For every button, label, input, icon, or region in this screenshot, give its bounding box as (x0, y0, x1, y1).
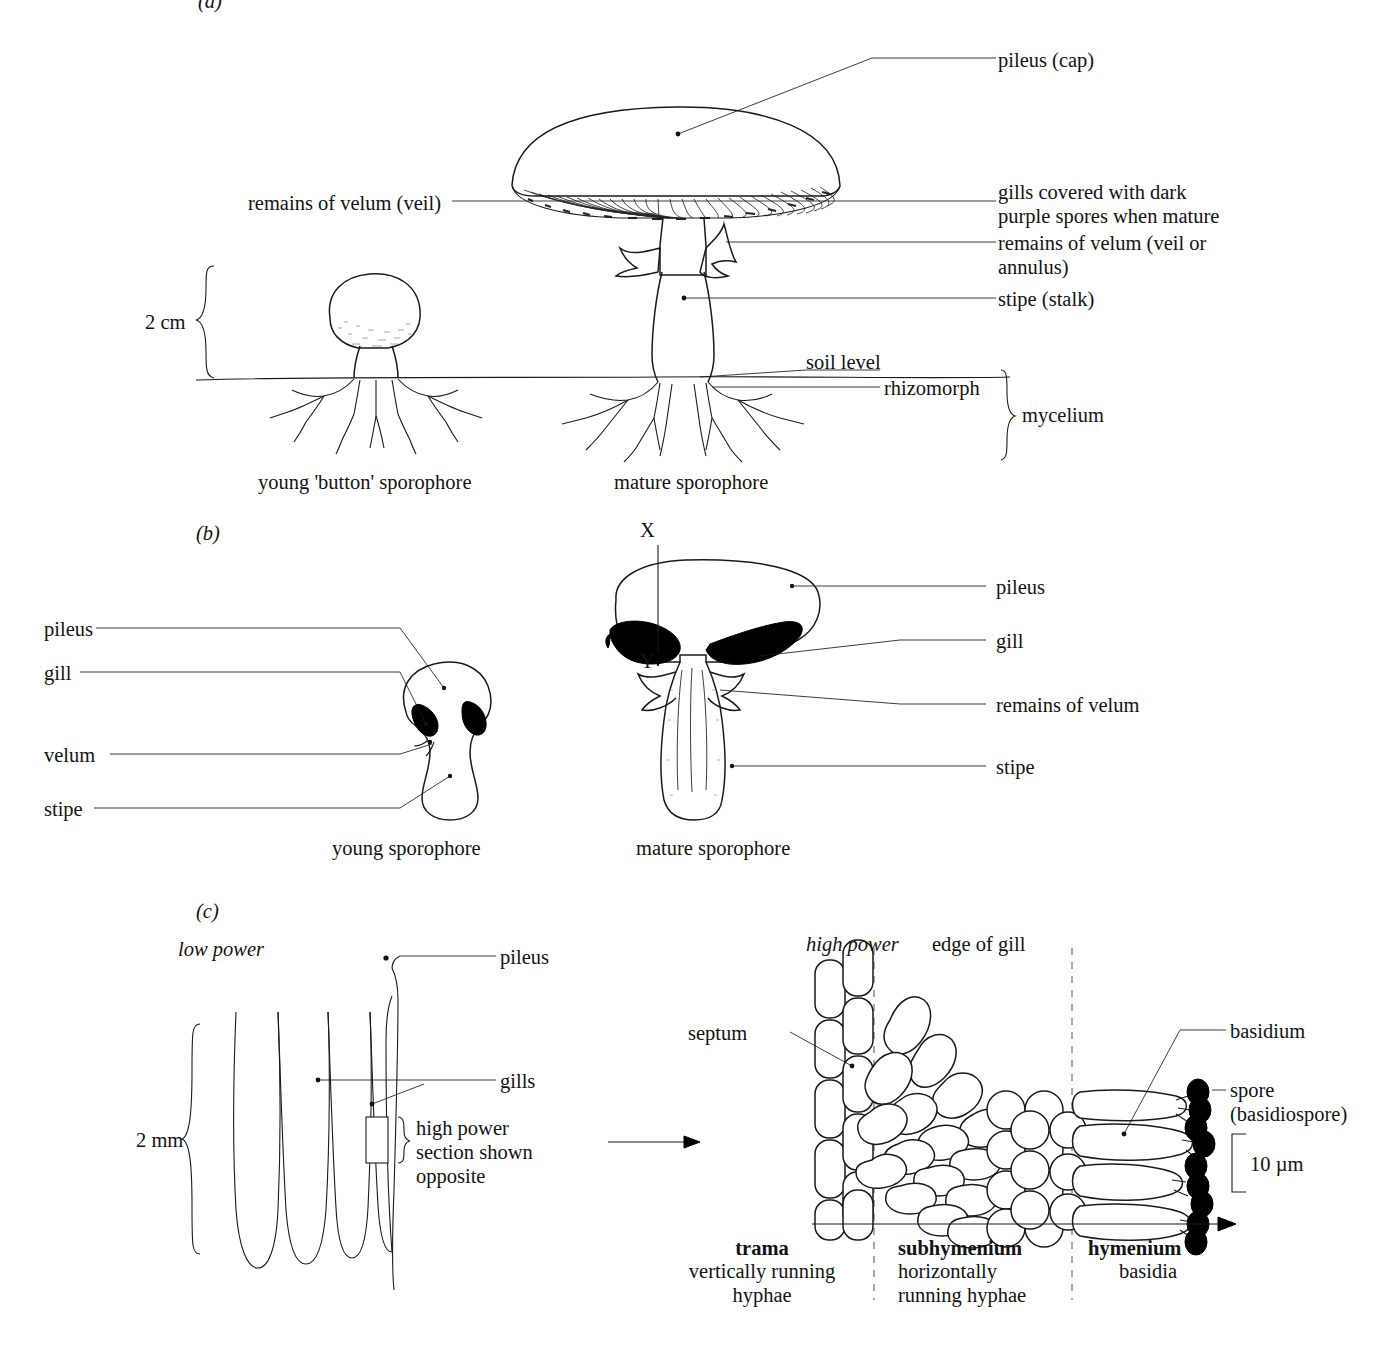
b-leader-pileus (96, 628, 444, 688)
c-box-brace (398, 1117, 410, 1163)
b-mature-stipe (661, 662, 725, 820)
b-stipe-fibres (677, 668, 707, 792)
c-gill-3 (328, 1012, 371, 1258)
label-highpower-section-note: high power section shown opposite (416, 1116, 533, 1189)
young-pileus-stipple (338, 322, 412, 346)
zone-hymenium-desc: basidia (1088, 1259, 1208, 1283)
b-young-outline (404, 662, 491, 820)
c-highpower-box (366, 1117, 388, 1163)
label-rhizomorph: rhizomorph (884, 376, 980, 400)
zone-trama-desc: vertically running hyphae (662, 1259, 862, 1307)
subhymenium-hyphae (856, 997, 1011, 1248)
label-b-gill-left: gill (44, 661, 71, 685)
panel-a-artwork (196, 58, 1015, 462)
label-c-gills: gills (500, 1069, 535, 1093)
label-stipe-stalk: stipe (stalk) (998, 287, 1094, 311)
label-scale-10um: 10 µm (1250, 1152, 1303, 1176)
young-pileus (329, 274, 420, 348)
mature-annulus (616, 248, 660, 277)
young-stipe (354, 346, 398, 378)
c-brace-2mm (182, 1024, 200, 1254)
caption-young-button-sporophore: young 'button' sporophore (258, 470, 472, 494)
label-mycelium: mycelium (1022, 403, 1104, 427)
label-b-remains-velum-right: remains of velum (996, 693, 1139, 717)
hymenium-basidia (1073, 1090, 1193, 1240)
c-leader-gills2 (372, 1084, 424, 1104)
b-young-gill-left (412, 704, 438, 736)
label-spore-basidiospore: spore (basidiospore) (1230, 1078, 1347, 1126)
caption-young-sporophore-b: young sporophore (332, 836, 481, 860)
mature-stipe-lower (652, 272, 714, 382)
b-mature-annulus (638, 672, 676, 710)
label-scale-2cm: 2 cm (145, 310, 185, 334)
caption-mature-sporophore-b: mature sporophore (636, 836, 790, 860)
c-gill-1 (234, 1012, 280, 1268)
label-septum: septum (688, 1021, 747, 1045)
c-scale-10um (1232, 1134, 1246, 1192)
b-leader-stipe (94, 776, 450, 808)
label-soil-level: soil level (806, 350, 881, 374)
mature-pileus (512, 107, 840, 196)
label-high-power: high power (806, 932, 899, 956)
scale-brace-2cm (196, 266, 214, 378)
c-pileus-edge (392, 968, 398, 1290)
label-b-gill-right: gill (996, 629, 1023, 653)
label-pileus-cap: pileus (cap) (998, 48, 1094, 72)
b-stipe-stipple (667, 690, 720, 795)
label-basidium: basidium (1230, 1019, 1305, 1043)
b-leader-velum (110, 744, 432, 754)
label-low-power: low power (178, 937, 264, 961)
brace-mycelium (1001, 370, 1015, 460)
label-scale-2mm: 2 mm (136, 1128, 183, 1152)
zone-hymenium-name: hymenium (1088, 1236, 1181, 1260)
b-leader-velum-r (720, 690, 986, 704)
b-leader-gill (80, 672, 426, 724)
label-b-stipe-right: stipe (996, 755, 1035, 779)
panel-b-artwork (80, 545, 986, 820)
panel-b-id: (b) (196, 522, 220, 545)
c-pileus-curve-top (392, 956, 400, 968)
label-gills-spores: gills covered with dark purple spores wh… (998, 180, 1219, 228)
label-b-pileus-left: pileus (44, 617, 93, 641)
young-rhizomorphs (270, 379, 482, 454)
label-remains-velum-veil: remains of velum (veil) (248, 191, 441, 215)
zone-subhymenium-name: subhymenium (898, 1236, 1022, 1260)
mature-stipe-upper (660, 218, 706, 275)
mushroom-anatomy-figure: (a) pileus (cap) remains of velum (veil)… (0, 0, 1398, 1364)
c-gill-2 (278, 1012, 329, 1264)
leader-pileus-a (678, 58, 996, 134)
label-b-velum-left: velum (44, 743, 95, 767)
label-b-pileus-right: pileus (996, 575, 1045, 599)
panel-c-id: (c) (196, 900, 219, 923)
label-edge-of-gill: edge of gill (932, 932, 1025, 956)
panel-a-id: (a) (198, 0, 222, 13)
label-section-y: Y (640, 649, 655, 673)
trama-hyphae (815, 940, 873, 1240)
b-mature-gill-right (706, 622, 802, 665)
label-section-x: X (640, 518, 655, 542)
label-c-pileus: pileus (500, 945, 549, 969)
label-remains-velum-annulus: remains of velum (veil or annulus) (998, 231, 1206, 279)
mature-rhizomorphs (562, 382, 804, 462)
mature-gill-underside (512, 186, 840, 218)
zone-subhymenium-desc: horizontally running hyphae (898, 1259, 1026, 1307)
b-young-gill-right (462, 702, 486, 736)
zone-trama-name: trama (662, 1236, 862, 1260)
caption-mature-sporophore-a: mature sporophore (614, 470, 768, 494)
label-b-stipe-left: stipe (44, 797, 83, 821)
